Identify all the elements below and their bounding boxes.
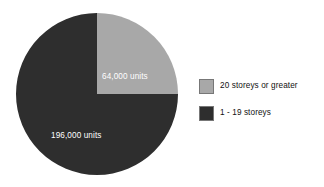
legend-label-20-storeys-or-greater: 20 storeys or greater: [220, 81, 298, 90]
legend-swatch-20-storeys-or-greater: [199, 79, 214, 94]
legend-item-1-19-storeys[interactable]: 1 - 19 storeys: [199, 106, 324, 121]
pie-chart: 196,000 units 64,000 units: [16, 13, 178, 175]
chart-legend: 20 storeys or greater 1 - 19 storeys: [199, 79, 324, 133]
chart-canvas: 196,000 units 64,000 units 20 storeys or…: [0, 0, 324, 187]
legend-swatch-1-19-storeys: [199, 106, 214, 121]
legend-label-1-19-storeys: 1 - 19 storeys: [220, 108, 271, 117]
pie-slice-label-minor: 64,000 units: [102, 73, 148, 81]
pie-chart-svg: [16, 13, 178, 175]
pie-slice-20-storeys-or-greater[interactable]: [97, 13, 178, 94]
pie-slice-label-major: 196,000 units: [51, 132, 101, 140]
legend-item-20-storeys-or-greater[interactable]: 20 storeys or greater: [199, 79, 324, 94]
